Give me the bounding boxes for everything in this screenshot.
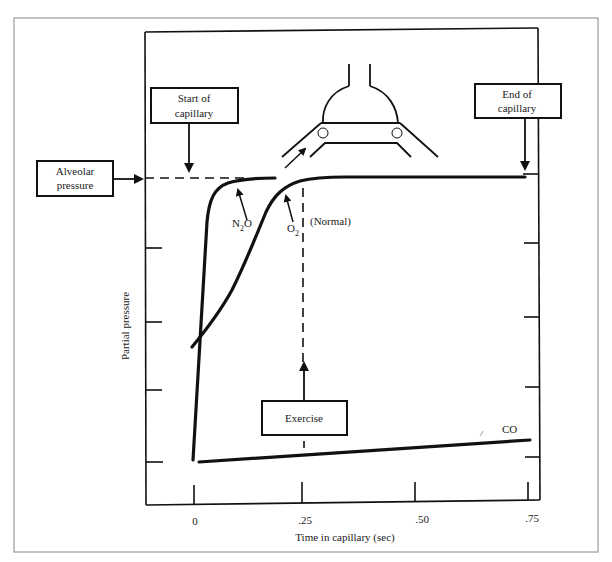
normal-label: (Normal) [310, 215, 351, 228]
start-of-capillary-box: Start of capillary [151, 88, 238, 171]
end-of-capillary-box: End of capillary [475, 84, 561, 169]
svg-text:End of: End of [502, 88, 532, 100]
x-axis-label: Time in capillary (sec) [295, 531, 395, 544]
svg-text:Start of: Start of [178, 92, 211, 104]
svg-text:Exercise: Exercise [285, 412, 323, 424]
diffusion-diagram: 0 .25 .50 .75 Time in capillary (sec) Pa… [0, 0, 612, 562]
y-axis-ticks-left [145, 248, 163, 462]
y-axis-ticks-right [523, 174, 540, 457]
n2o-label: N2O [232, 190, 252, 233]
co-stray-mark [480, 431, 483, 436]
svg-text:capillary: capillary [498, 102, 537, 114]
x-tick-0: 0 [192, 515, 198, 527]
x-tick-075: .75 [525, 512, 539, 524]
svg-text:O2: O2 [287, 222, 299, 238]
svg-text:N2O: N2O [232, 217, 252, 233]
alveolar-pressure-box: Alveolar pressure [37, 161, 142, 196]
co-curve [199, 440, 530, 462]
co-label: CO [502, 423, 517, 435]
x-tick-050: .50 [415, 513, 429, 525]
o2-label: O2 [286, 196, 299, 238]
y-axis-label: Partial pressure [119, 292, 131, 360]
alveolus-capillary-icon [282, 64, 438, 168]
svg-text:capillary: capillary [175, 107, 214, 119]
svg-text:Alveolar: Alveolar [56, 165, 95, 177]
exercise-box: Exercise [262, 363, 347, 435]
svg-text:pressure: pressure [57, 179, 94, 191]
x-tick-025: .25 [298, 514, 312, 526]
